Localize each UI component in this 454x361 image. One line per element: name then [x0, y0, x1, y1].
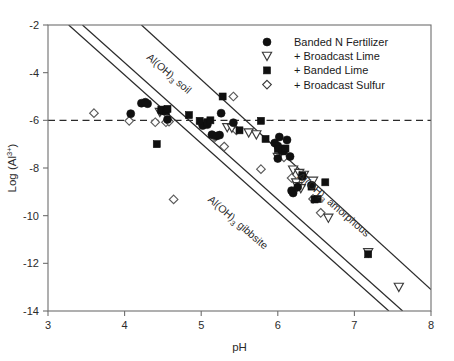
x-axis-tick-label: 7: [351, 319, 357, 331]
y-axis: -2-4-6-8-10-12-14Log (Al3+): [5, 19, 48, 317]
curve-label: Al(OH)3 soil: [143, 51, 194, 98]
curve-label: Al(OH)3 gibbsite: [204, 193, 271, 254]
data-point-filled-circle: [283, 136, 291, 144]
legend-item-label: + Broadcast Sulfur: [294, 79, 385, 91]
data-point-filled-circle: [263, 38, 271, 46]
x-axis-tick-label: 5: [198, 319, 204, 331]
data-point-filled-square: [264, 67, 271, 74]
data-point-filled-circle: [144, 100, 152, 108]
y-axis-tick-label: -8: [29, 162, 39, 174]
y-axis-tick-label: -2: [29, 19, 39, 31]
curve-label: Al(OH)3 amorphous: [294, 170, 373, 241]
series-banded-lime: [153, 93, 371, 258]
data-point-open-diamond: [169, 195, 178, 204]
data-point-filled-square: [322, 179, 329, 186]
data-point-filled-square: [164, 105, 171, 112]
data-point-filled-circle: [294, 183, 302, 191]
data-point-filled-circle: [274, 154, 282, 162]
data-point-open-diamond: [316, 209, 325, 218]
y-axis-tick-label: -6: [29, 114, 39, 126]
x-axis: 345678pH: [45, 311, 434, 353]
x-axis-tick-label: 8: [428, 319, 434, 331]
data-point-open-triangle: [252, 131, 261, 139]
legend-item-label: Banded N Fertilizer: [294, 36, 388, 48]
y-axis-tick-label: -14: [23, 305, 39, 317]
data-point-filled-square: [365, 251, 372, 258]
data-point-filled-square: [196, 117, 203, 124]
data-point-open-triangle: [244, 129, 253, 137]
x-axis-tick-label: 6: [275, 319, 281, 331]
data-point-filled-circle: [275, 133, 283, 141]
data-point-open-diamond: [125, 117, 134, 126]
chart-figure: Al(OH)3 soilAl(OH)3 gibbsiteAl(OH)3 amor…: [0, 0, 454, 361]
aluminum-solubility-scatter-plot: Al(OH)3 soilAl(OH)3 gibbsiteAl(OH)3 amor…: [0, 0, 454, 361]
data-point-filled-square: [262, 135, 269, 142]
data-point-filled-square: [185, 112, 192, 119]
data-point-filled-circle: [286, 153, 294, 161]
x-axis-tick-label: 4: [122, 319, 128, 331]
data-point-filled-square: [153, 141, 160, 148]
data-point-filled-circle: [127, 110, 135, 118]
data-point-filled-circle: [216, 131, 224, 139]
x-axis-tick-label: 3: [45, 319, 51, 331]
y-axis-tick-label: -10: [23, 210, 39, 222]
data-point-filled-square: [282, 145, 289, 152]
data-point-open-triangle: [324, 214, 333, 222]
legend-item-label: + Broadcast Lime: [294, 50, 380, 62]
data-point-open-diamond: [90, 109, 99, 118]
data-point-filled-circle: [217, 109, 225, 117]
legend: Banded N Fertilizer+ Broadcast Lime+ Ban…: [252, 33, 430, 95]
y-axis-tick-label: -4: [29, 67, 39, 79]
data-point-filled-circle: [163, 115, 171, 123]
data-point-filled-circle: [229, 119, 237, 127]
legend-item-label: + Banded Lime: [294, 64, 368, 76]
x-axis-title: pH: [232, 341, 247, 353]
data-point-open-triangle: [394, 283, 403, 291]
data-point-filled-square: [236, 127, 243, 134]
data-point-open-diamond: [151, 118, 160, 127]
data-point-filled-square: [207, 117, 214, 124]
data-point-filled-square: [257, 117, 264, 124]
data-point-open-diamond: [257, 165, 266, 174]
y-axis-tick-label: -12: [23, 257, 39, 269]
y-axis-title: Log (Al3+): [5, 143, 18, 192]
data-point-open-diamond: [229, 92, 238, 101]
data-point-filled-square: [219, 93, 226, 100]
